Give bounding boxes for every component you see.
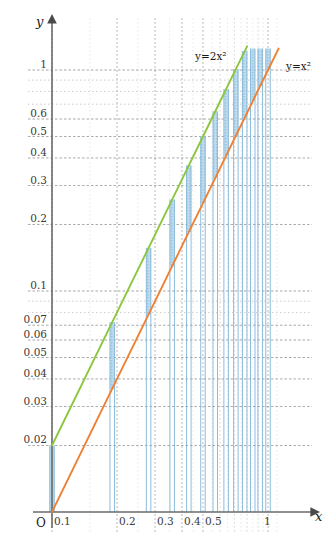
y-tick-label: 0.03 [24, 395, 47, 407]
vertical-bar [258, 49, 263, 86]
vertical-bar [224, 89, 229, 156]
series-label-orange: y=x² [285, 60, 311, 72]
curves-group [52, 46, 279, 512]
y-axis-title: y [35, 14, 44, 29]
y-tick-label: 0.6 [30, 107, 47, 119]
vertical-bar [187, 165, 192, 232]
y-tick-label: 0.1 [30, 279, 47, 291]
y-tick-label: 0.04 [24, 367, 48, 379]
y-tick-label: 0.06 [24, 328, 48, 340]
vertical-bar [242, 51, 247, 118]
x-tick-label: 0.2 [119, 515, 136, 527]
vertical-bar-lower [146, 314, 151, 512]
y-tick-label: 0.05 [24, 346, 47, 358]
vertical-bar [201, 137, 206, 204]
log-log-chart: 0.10.20.30.40.510.020.030.040.050.060.07… [0, 0, 329, 548]
vertical-bar-lower [213, 178, 218, 512]
vertical-bar [146, 248, 151, 315]
vertical-bar-lower [258, 86, 263, 512]
vertical-bars-group [50, 49, 271, 512]
series-line-orange [52, 49, 279, 512]
origin-label: O [36, 516, 46, 530]
vertical-bar-lower [234, 136, 239, 512]
vertical-bar [234, 69, 239, 136]
y-tick-label: 0.5 [30, 125, 47, 137]
y-tick-label: 0.3 [30, 174, 47, 186]
vertical-bar-lower [242, 118, 247, 512]
y-tick-label: 1 [40, 58, 47, 70]
y-tick-label: 0.2 [30, 212, 47, 224]
vertical-bar-lower [110, 389, 115, 512]
x-axis-title: x [315, 509, 323, 524]
vertical-bar [170, 200, 175, 267]
x-tick-label: 0.4 [184, 515, 201, 527]
series-label-green: y=2x² [194, 50, 227, 62]
x-tick-label: 0.5 [205, 515, 222, 527]
vertical-bar [110, 322, 115, 389]
x-tick-label: 0.3 [157, 515, 174, 527]
vertical-bar-lower [170, 266, 175, 512]
vertical-bar-lower [187, 232, 192, 512]
y-tick-label: 0.4 [30, 146, 47, 158]
x-tick-label: 0.1 [54, 515, 71, 527]
vertical-bar [251, 49, 256, 102]
y-tick-label: 0.02 [24, 433, 47, 445]
x-tick-label: 1 [264, 515, 271, 527]
y-tick-label: 0.07 [24, 313, 47, 325]
chart-root: 0.10.20.30.40.510.020.030.040.050.060.07… [0, 0, 329, 548]
vertical-bar [213, 111, 218, 178]
